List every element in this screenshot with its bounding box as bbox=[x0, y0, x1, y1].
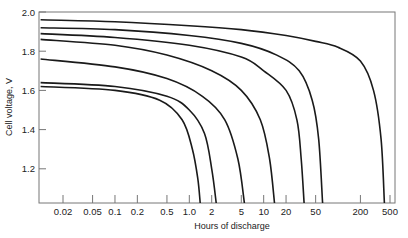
y-tick-label: 1.2 bbox=[22, 163, 35, 174]
x-tick-label: 200 bbox=[352, 206, 368, 217]
discharge-curve-curve-4 bbox=[41, 39, 275, 203]
x-tick-label: 0.2 bbox=[131, 206, 144, 217]
y-tick-label: 1.4 bbox=[22, 124, 35, 135]
x-tick-label: 0.5 bbox=[160, 206, 173, 217]
y-tick-label: 2.0 bbox=[22, 7, 35, 18]
y-tick-label: 1.8 bbox=[22, 46, 35, 57]
y-axis: 2.01.81.61.41.2 bbox=[22, 7, 46, 175]
x-tick-label: 10 bbox=[258, 206, 269, 217]
x-axis: 0.020.050.10.20.51.025102050200500 bbox=[54, 195, 398, 217]
x-axis-title: Hours of discharge bbox=[194, 221, 270, 231]
discharge-curve-curve-6 bbox=[41, 83, 217, 203]
discharge-chart: 2.01.81.61.41.2 0.020.050.10.20.51.02510… bbox=[0, 0, 408, 238]
discharge-curve-curve-7 bbox=[41, 87, 201, 204]
discharge-curve-curve-2 bbox=[41, 28, 323, 203]
x-tick-label: 1.0 bbox=[183, 206, 196, 217]
y-axis-title: Cell voltage, V bbox=[4, 78, 14, 136]
x-tick-label: 0.02 bbox=[54, 206, 73, 217]
x-tick-label: 2 bbox=[209, 206, 214, 217]
x-tick-label: 50 bbox=[310, 206, 321, 217]
x-tick-label: 20 bbox=[281, 206, 292, 217]
x-tick-label: 500 bbox=[382, 206, 398, 217]
discharge-curve-curve-3 bbox=[41, 34, 305, 203]
x-tick-label: 0.05 bbox=[83, 206, 102, 217]
y-tick-label: 1.6 bbox=[22, 85, 35, 96]
x-tick-label: 0.1 bbox=[108, 206, 121, 217]
series-lines bbox=[41, 20, 385, 203]
x-tick-label: 5 bbox=[239, 206, 244, 217]
plot-frame bbox=[39, 12, 395, 203]
